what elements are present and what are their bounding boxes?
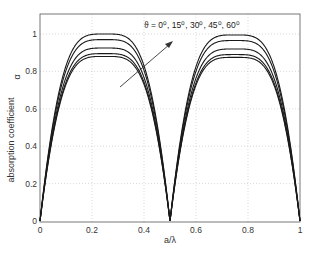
y-axis-label: absorption coefficient bbox=[6, 97, 16, 182]
x-tick-label: 0.2 bbox=[86, 225, 98, 235]
y-axis-symbol: α bbox=[12, 74, 22, 79]
chart: 00.20.40.60.8100.20.40.60.81 a/λ absorpt… bbox=[0, 0, 311, 253]
y-tick-label: 0.4 bbox=[25, 141, 37, 151]
x-tick-label: 0.8 bbox=[242, 225, 254, 235]
curve-line bbox=[40, 56, 300, 221]
y-tick-label: 0.6 bbox=[25, 104, 37, 114]
x-tick-label: 1 bbox=[298, 225, 303, 235]
curve-line bbox=[40, 54, 300, 221]
x-tick-label: 0.4 bbox=[138, 225, 150, 235]
theta-annotation: ϑ = 0⁰, 15⁰, 30⁰, 45⁰, 60⁰ bbox=[144, 20, 240, 30]
x-tick-label: 0 bbox=[38, 225, 43, 235]
y-tick-label: 0.8 bbox=[25, 66, 37, 76]
x-tick-label: 0.6 bbox=[190, 225, 202, 235]
y-tick-label: 0 bbox=[32, 216, 37, 226]
axis-ticks: 00.20.40.60.8100.20.40.60.81 bbox=[25, 29, 302, 235]
curve-line bbox=[40, 48, 300, 221]
y-tick-label: 1 bbox=[32, 29, 37, 39]
curves bbox=[40, 34, 300, 221]
curve-line bbox=[40, 40, 300, 221]
x-axis-label: a/λ bbox=[164, 235, 177, 245]
y-tick-label: 0.2 bbox=[25, 179, 37, 189]
